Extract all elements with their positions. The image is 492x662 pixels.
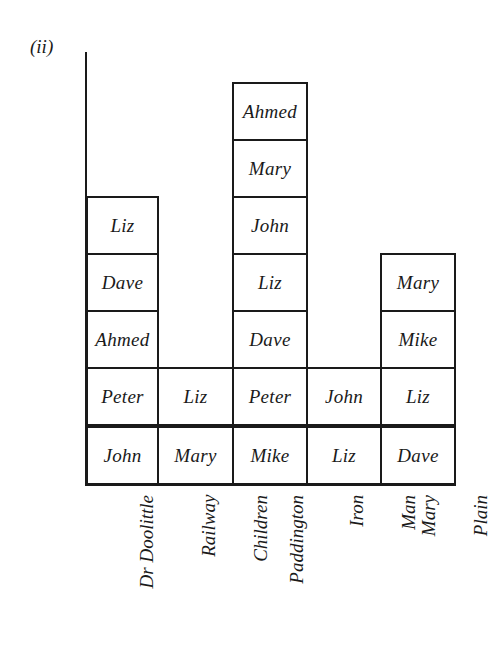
- block: Mike: [232, 426, 308, 485]
- x-axis-labels: Dr Doolittle Railway Children Paddington…: [0, 495, 479, 655]
- x-label-line1: Mary: [418, 495, 439, 536]
- block: John: [86, 426, 159, 485]
- figure-label: (ii): [30, 36, 53, 58]
- block: Ahmed: [86, 310, 159, 369]
- block: Liz: [380, 367, 456, 426]
- bar-railway-children: Mary Liz: [157, 369, 234, 485]
- x-label-line1: Dr Doolittle: [136, 495, 157, 588]
- block: Liz: [306, 426, 382, 485]
- block: Peter: [86, 367, 159, 426]
- block: Dave: [380, 426, 456, 485]
- x-label-line1: Railway: [198, 495, 219, 557]
- block: Peter: [232, 367, 308, 426]
- block: Mary: [232, 139, 308, 198]
- x-label-line1: Iron: [346, 495, 367, 527]
- block: John: [306, 367, 382, 426]
- block: Mike: [380, 310, 456, 369]
- x-label-mary-plain: Mary Plain: [390, 495, 492, 555]
- block: Liz: [232, 253, 308, 312]
- block: Ahmed: [232, 82, 308, 141]
- block: John: [232, 196, 308, 255]
- block: Dave: [86, 253, 159, 312]
- block: Liz: [86, 196, 159, 255]
- block: Liz: [157, 367, 234, 426]
- block: Dave: [232, 310, 308, 369]
- bar-paddington: Mike Peter Dave Liz John Mary Ahmed: [232, 84, 308, 485]
- block: Mary: [380, 253, 456, 312]
- x-label-line2: Plain: [470, 495, 491, 536]
- x-label-line1: Paddington: [286, 495, 307, 584]
- bar-iron-man: Liz John: [306, 369, 382, 485]
- block: Mary: [157, 426, 234, 485]
- bar-mary-plain: Dave Liz Mike Mary: [380, 255, 456, 485]
- bar-dr-doolittle: John Peter Ahmed Dave Liz: [86, 198, 159, 485]
